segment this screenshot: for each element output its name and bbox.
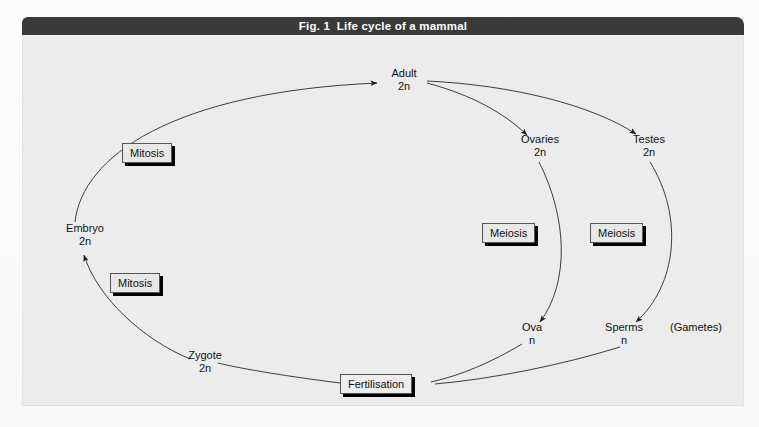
node-testes-ploidy: 2n [618, 146, 680, 159]
node-ova-ploidy: n [506, 334, 558, 347]
node-testes-label: Testes [633, 133, 665, 145]
figure-page: Fig. 1 Life cycle of a mammal [0, 0, 759, 427]
node-zygote-label: Zygote [188, 349, 222, 361]
process-box-meiosis-testes[interactable]: Meiosis [590, 223, 643, 243]
node-embryo: Embryo 2n [52, 222, 118, 248]
node-embryo-label: Embryo [66, 222, 104, 234]
node-sperms-label: Sperms [605, 321, 643, 333]
node-embryo-ploidy: 2n [52, 235, 118, 248]
node-ova: Ova n [506, 321, 558, 347]
node-adult-ploidy: 2n [374, 80, 434, 93]
node-adult: Adult 2n [374, 67, 434, 93]
node-ovaries-ploidy: 2n [506, 146, 574, 159]
process-box-mitosis-upper[interactable]: Mitosis [122, 143, 172, 163]
node-testes: Testes 2n [618, 133, 680, 159]
node-sperms: Sperms n [592, 321, 656, 347]
edge-zygote-to-embryo [84, 255, 190, 359]
node-zygote: Zygote 2n [174, 349, 236, 375]
node-adult-label: Adult [391, 67, 416, 79]
edge-adult-to-testes [427, 81, 636, 134]
annotation-gametes: (Gametes) [670, 321, 722, 333]
edge-embryo-to-adult [75, 83, 377, 222]
node-ova-label: Ova [522, 321, 542, 333]
edge-ovaries-to-ova [539, 162, 561, 322]
edge-ova-to-fertilisation [431, 344, 522, 382]
node-sperms-ploidy: n [592, 334, 656, 347]
process-box-mitosis-lower[interactable]: Mitosis [110, 273, 160, 293]
node-ovaries-label: Ovaries [521, 133, 559, 145]
edge-sperms-to-fertilisation [435, 347, 620, 384]
edge-fertilisation-to-zygote [218, 363, 340, 383]
process-box-fertilisation[interactable]: Fertilisation [340, 374, 412, 394]
node-ovaries: Ovaries 2n [506, 133, 574, 159]
figure-panel: Fig. 1 Life cycle of a mammal [22, 17, 744, 406]
process-box-meiosis-ovaries[interactable]: Meiosis [482, 223, 535, 243]
node-zygote-ploidy: 2n [174, 362, 236, 375]
